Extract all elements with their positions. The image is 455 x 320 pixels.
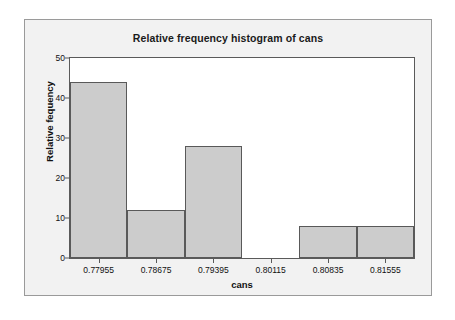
histogram-screenshot: Relative frequency histogram of cans Rel… — [0, 0, 455, 320]
x-axis-tick-mark — [213, 259, 214, 263]
x-axis-tick-mark — [99, 259, 100, 263]
plot-frame — [69, 57, 415, 259]
x-axis-tick-mark — [156, 259, 157, 263]
histogram-bars — [70, 58, 414, 258]
y-axis-tick-label: 30 — [45, 133, 65, 143]
x-axis-tick-mark — [385, 259, 386, 263]
y-axis-tick-label: 0 — [45, 253, 65, 263]
histogram-bar — [70, 82, 127, 258]
histogram-bar — [185, 146, 242, 258]
x-axis-tick-label: 0.78675 — [141, 265, 172, 275]
y-axis-tick-label: 20 — [45, 173, 65, 183]
x-axis-tick-label: 0.81555 — [370, 265, 401, 275]
x-axis-title: cans — [69, 279, 415, 290]
x-axis-tick-mark — [328, 259, 329, 263]
chart-title: Relative frequency histogram of cans — [25, 32, 431, 44]
y-axis-tick-label: 10 — [45, 213, 65, 223]
histogram-bar — [127, 210, 184, 258]
x-axis-tick-label: 0.80835 — [313, 265, 344, 275]
y-axis-tick-label: 50 — [45, 53, 65, 63]
plot-area — [70, 58, 414, 258]
x-axis-tick-label: 0.80115 — [256, 265, 286, 275]
y-axis-tick-label: 40 — [45, 93, 65, 103]
histogram-bar — [357, 226, 414, 258]
y-axis-tick-labels: 01020304050 — [41, 57, 65, 259]
x-axis-tick-label: 0.77955 — [83, 265, 114, 275]
histogram-bar — [299, 226, 356, 258]
x-axis-tick-label: 0.79395 — [198, 265, 229, 275]
x-axis-tick-labels: 0.779550.786750.793950.801150.808350.815… — [69, 265, 415, 279]
chart-panel: Relative frequency histogram of cans Rel… — [24, 19, 432, 296]
x-axis-tick-mark — [271, 259, 272, 263]
